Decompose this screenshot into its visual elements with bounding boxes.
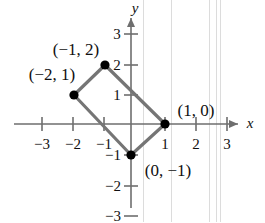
x-axis-label: x [247, 116, 254, 131]
vertex-dot-neg2-1 [69, 90, 78, 99]
vertex-dot-neg1-2 [100, 60, 109, 69]
y-tick-label-2: 2 [113, 58, 121, 73]
x-tick-label-neg3: −3 [34, 137, 50, 152]
plot-canvas [0, 0, 265, 222]
y-tick-label-neg2: −2 [105, 179, 121, 194]
point-label-0-neg1: (0, −1) [145, 162, 191, 179]
x-axis [14, 120, 238, 128]
y-tick-label-neg1: −1 [105, 148, 121, 163]
y-axis-label: y [132, 1, 139, 16]
y-tick-label-neg3: −3 [105, 209, 121, 223]
point-label-1-0: (1, 0) [178, 102, 215, 119]
y-axis [127, 18, 135, 208]
point-label-neg1-2: (−1, 2) [53, 41, 99, 58]
vertex-dot-1-0 [160, 119, 169, 128]
coordinate-plane-figure: (−1, 2) (−2, 1) (1, 0) (0, −1) −3 −2 −1 … [0, 0, 265, 222]
y-tick-label-3: 3 [113, 27, 121, 42]
x-tick-label-neg2: −2 [65, 137, 81, 152]
vertex-dot-0-neg1 [126, 150, 135, 159]
square-shape [74, 65, 165, 155]
x-tick-label-1: 1 [161, 137, 169, 152]
x-tick-label-2: 2 [192, 137, 200, 152]
x-tick-label-3: 3 [223, 137, 231, 152]
point-label-neg2-1: (−2, 1) [29, 66, 75, 83]
y-tick-label-1: 1 [113, 88, 121, 103]
